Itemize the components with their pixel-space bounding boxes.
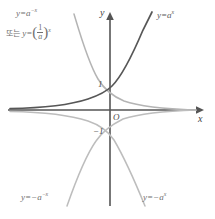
y-axis-tick-label-minus-1: −1 (93, 127, 104, 136)
curve-label-alternate-form: 또는 y=(1a)x (6, 25, 51, 43)
curve-label-y-equals-neg-a-neg-x: y=−a−x (21, 192, 48, 202)
alt-form-prefix-text: 또는 (6, 29, 20, 38)
label-exponent-neg-a-x: x (164, 191, 167, 197)
alt-form-right-paren: ) (43, 25, 48, 40)
y-axis-label: y (100, 8, 104, 18)
curve-y-equals-neg-a-neg-x (67, 110, 196, 206)
label-exponent-a-neg-x: −x (31, 7, 38, 13)
origin-label: O (113, 113, 120, 122)
label-exponent-neg-a-neg-x: −x (42, 191, 49, 197)
label-exponent-a-x: x (172, 9, 175, 15)
y-axis-tick-label-1: 1 (98, 80, 103, 89)
curve-label-y-equals-a-x: y=ax (157, 10, 174, 20)
curve-y-equals-a-neg-x (74, 14, 196, 110)
alt-form-exponent: x (48, 27, 51, 33)
curve-label-y-equals-neg-a-x: y=−ax (143, 192, 166, 202)
y-axis-arrow (106, 12, 114, 20)
curve-label-y-equals-a-neg-x: y=a−x (16, 8, 37, 18)
label-eq-neg-a-neg-x: =− (25, 192, 37, 202)
x-axis-label: x (198, 114, 202, 124)
exponential-graph-figure: y=a−x 또는 y=(1a)x y=ax y=−a−x y=−ax 1 −1 … (0, 0, 215, 219)
label-eq-neg-a-x: =− (147, 192, 159, 202)
